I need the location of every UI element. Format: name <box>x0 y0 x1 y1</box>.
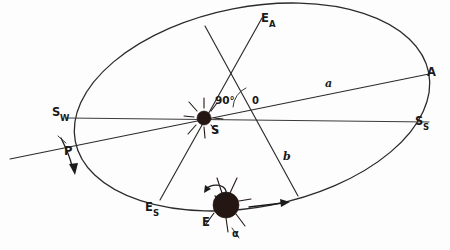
label-vernal-equinox: E S <box>145 200 159 218</box>
equinox-axis-group <box>160 18 262 200</box>
sun-ray <box>189 102 197 111</box>
label-apoapsis: A <box>427 65 436 79</box>
earth-ray <box>226 218 228 232</box>
minor-axis-group <box>205 26 298 196</box>
earth-ray <box>236 214 245 226</box>
earth-marker-group <box>206 178 251 232</box>
label-semi-major-axis: a <box>325 77 332 90</box>
orbit-direction-tick <box>58 136 66 143</box>
label-summer-solstice-sub: S <box>423 122 429 132</box>
label-sun: S <box>211 123 219 137</box>
earth-motion-arrowhead <box>280 199 290 207</box>
label-earth: E <box>202 215 210 229</box>
label-semi-minor-axis: b <box>283 150 291 163</box>
label-summer-solstice: S S <box>415 114 429 132</box>
label-winter-solstice: S W <box>52 105 70 123</box>
label-autumnal-equinox: E A <box>261 11 276 29</box>
sun-ray <box>204 127 205 138</box>
label-periapsis: P <box>64 144 72 158</box>
label-winter-solstice-sub: W <box>60 113 70 123</box>
major-axis-group <box>10 74 429 159</box>
label-vernal-equinox-sub: S <box>153 208 159 218</box>
earth-axis-ray <box>230 178 237 193</box>
earth-ray <box>239 199 251 201</box>
orbit-diagram-svg: A P S E 0 90° a b α S W S S E A <box>0 0 450 250</box>
equinox-axis-line <box>160 18 262 200</box>
label-autumnal-equinox-sub: A <box>269 19 276 29</box>
label-layer: A P S E 0 90° a b α S W S S E A <box>52 11 436 239</box>
solstice-axis-group <box>66 118 429 122</box>
label-center: 0 <box>252 95 259 106</box>
sun-ray <box>184 116 194 117</box>
sun-ray <box>214 118 223 119</box>
sun-body <box>197 111 211 125</box>
orbit-diagram-root: A P S E 0 90° a b α S W S S E A <box>0 0 450 250</box>
minor-axis-line <box>205 26 298 196</box>
label-autumnal-equinox-base: E <box>261 11 269 25</box>
orbit-direction-arrowhead <box>69 163 78 175</box>
sun-ray <box>188 125 196 134</box>
label-right-angle: 90° <box>215 94 235 106</box>
label-vernal-equinox-base: E <box>145 200 153 214</box>
solstice-axis-line <box>66 118 429 122</box>
major-axis-line <box>10 74 429 159</box>
label-alpha-angle: α <box>232 228 239 239</box>
